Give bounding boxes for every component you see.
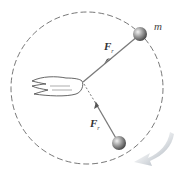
mass-label: m [154,20,162,32]
hand-icon [32,77,83,96]
ball-bottom [112,136,126,150]
force-label-bottom: Fr [90,117,100,131]
force-label-top: Fr [104,40,114,54]
circular-motion-diagram: m Fr Fr [0,0,175,174]
diagram-graphics [0,0,175,174]
motion-direction-arrow [134,132,174,166]
ball-top [133,27,147,41]
